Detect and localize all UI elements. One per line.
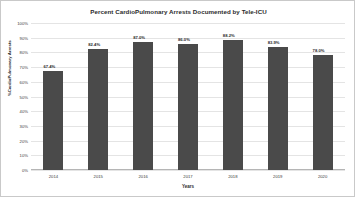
- x-axis-tick-label: 2016: [138, 174, 147, 179]
- y-axis-tick-label: 100%: [17, 21, 28, 26]
- y-axis-tick-label: 20%: [20, 138, 28, 143]
- gridline: 0%: [31, 170, 345, 171]
- bar-value-label: 88.2%: [223, 33, 235, 38]
- chart-title: Percent CardioPulmonary Arrests Document…: [1, 8, 355, 15]
- bar-slot: 88.2%2018: [210, 23, 255, 170]
- y-axis-tick-label: 10%: [20, 153, 28, 158]
- bar-value-label: 83.9%: [268, 40, 280, 45]
- y-axis-tick-label: 80%: [20, 50, 28, 55]
- y-axis-label: %CardioPulmonary Arrests: [7, 40, 12, 96]
- bar[interactable]: 82.4%: [88, 49, 108, 170]
- bar-slot: 67.4%2014: [31, 23, 76, 170]
- y-axis-tick-label: 90%: [20, 35, 28, 40]
- x-axis-label: Years: [31, 184, 345, 189]
- bar-slot: 86.0%2017: [166, 23, 211, 170]
- bar-slot: 78.0%2020: [300, 23, 345, 170]
- y-axis-tick-label: 50%: [20, 94, 28, 99]
- bar[interactable]: 88.2%: [223, 40, 243, 170]
- y-axis-tick-label: 60%: [20, 79, 28, 84]
- x-axis-tick-label: 2019: [273, 174, 282, 179]
- x-axis-tick-label: 2017: [183, 174, 192, 179]
- bar-value-label: 78.0%: [313, 48, 325, 53]
- chart-figure: Percent CardioPulmonary Arrests Document…: [0, 0, 355, 197]
- y-axis-tick-label: 40%: [20, 109, 28, 114]
- bar[interactable]: 83.9%: [268, 47, 288, 170]
- x-axis-tick-label: 2020: [318, 174, 327, 179]
- bar-series: 67.4%201482.4%201587.0%201686.0%201788.2…: [31, 23, 345, 170]
- plot-area: 100%90%80%70%60%50%40%30%20%10%0% 67.4%2…: [31, 23, 345, 170]
- x-axis-tick-label: 2014: [49, 174, 58, 179]
- bar-value-label: 82.4%: [88, 42, 100, 47]
- bar-value-label: 87.0%: [133, 35, 145, 40]
- y-axis-tick-label: 70%: [20, 65, 28, 70]
- bar[interactable]: 86.0%: [178, 44, 198, 170]
- bar-slot: 82.4%2015: [76, 23, 121, 170]
- bar[interactable]: 87.0%: [133, 42, 153, 170]
- bar-value-label: 67.4%: [43, 64, 55, 69]
- bar[interactable]: 78.0%: [313, 55, 333, 170]
- bar-slot: 87.0%2016: [121, 23, 166, 170]
- bar-value-label: 86.0%: [178, 37, 190, 42]
- plot-wrap: 100%90%80%70%60%50%40%30%20%10%0% 67.4%2…: [31, 23, 345, 170]
- x-axis-tick-label: 2015: [94, 174, 103, 179]
- x-axis-tick-label: 2018: [228, 174, 237, 179]
- y-axis-tick-label: 0%: [22, 168, 28, 173]
- y-axis-tick-label: 30%: [20, 123, 28, 128]
- bar[interactable]: 67.4%: [43, 71, 63, 170]
- bar-slot: 83.9%2019: [255, 23, 300, 170]
